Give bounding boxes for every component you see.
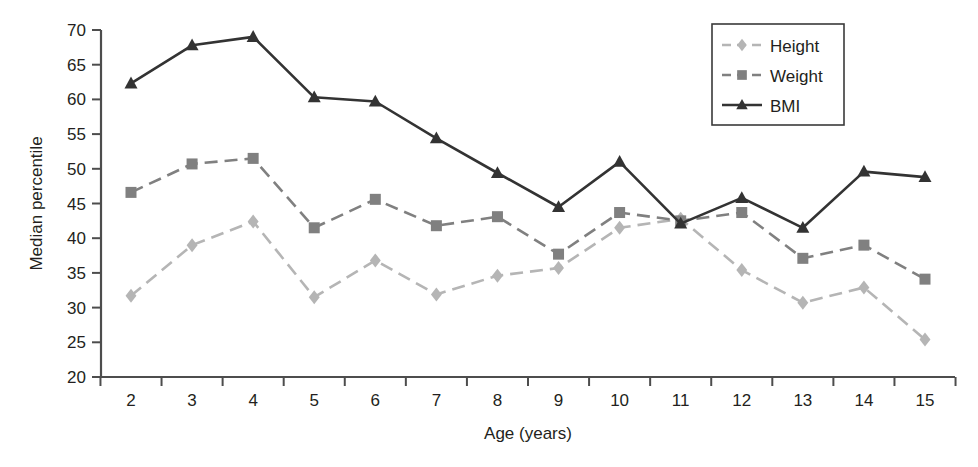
data-point-weight-15 xyxy=(920,274,931,285)
data-point-bmi-7 xyxy=(430,131,443,143)
data-point-height-10 xyxy=(614,221,625,235)
legend: HeightWeightBMI xyxy=(712,24,844,125)
data-point-height-5 xyxy=(309,290,320,304)
line-chart: 2025303540455055606570234567891011121314… xyxy=(0,0,978,467)
x-tick-label: 4 xyxy=(248,391,257,410)
x-tick-label: 11 xyxy=(672,391,690,410)
y-tick-label: 30 xyxy=(67,299,86,318)
data-point-weight-8 xyxy=(492,211,503,222)
x-tick-label: 10 xyxy=(610,391,629,410)
data-point-height-3 xyxy=(187,238,198,252)
x-tick-label: 8 xyxy=(493,391,502,410)
data-point-bmi-8 xyxy=(491,166,504,178)
y-tick-label: 45 xyxy=(67,195,86,214)
x-tick-label: 14 xyxy=(854,391,873,410)
data-point-weight-9 xyxy=(553,249,564,260)
data-point-weight-10 xyxy=(614,207,625,218)
chart-container: 2025303540455055606570234567891011121314… xyxy=(0,0,978,467)
marker-square xyxy=(737,70,747,80)
y-axis-title: Median percentile xyxy=(27,136,46,270)
y-tick-label: 70 xyxy=(67,21,86,40)
data-point-bmi-9 xyxy=(552,200,565,212)
legend-label-height: Height xyxy=(770,37,819,56)
data-point-weight-14 xyxy=(858,240,869,251)
x-tick-label: 7 xyxy=(432,391,441,410)
x-tick-label: 2 xyxy=(126,391,135,410)
y-tick-label: 20 xyxy=(67,368,86,387)
data-point-height-7 xyxy=(431,287,442,301)
series-height xyxy=(126,212,931,347)
data-point-weight-5 xyxy=(309,222,320,233)
x-tick-label: 3 xyxy=(187,391,196,410)
x-tick-label: 13 xyxy=(793,391,812,410)
data-point-bmi-2 xyxy=(125,77,138,89)
data-point-bmi-12 xyxy=(735,191,748,203)
data-point-weight-4 xyxy=(248,153,259,164)
data-point-weight-7 xyxy=(431,220,442,231)
y-tick-label: 50 xyxy=(67,160,86,179)
data-point-weight-12 xyxy=(736,207,747,218)
data-point-bmi-4 xyxy=(247,30,260,42)
data-point-height-6 xyxy=(370,253,381,267)
x-tick-label: 9 xyxy=(554,391,563,410)
y-tick-label: 35 xyxy=(67,264,86,283)
x-axis-title: Age (years) xyxy=(484,424,572,443)
data-point-height-8 xyxy=(492,269,503,283)
y-tick-label: 40 xyxy=(67,229,86,248)
data-point-bmi-14 xyxy=(857,165,870,177)
data-point-height-2 xyxy=(126,289,137,303)
data-point-weight-6 xyxy=(370,194,381,205)
x-tick-label: 12 xyxy=(732,391,751,410)
data-point-height-13 xyxy=(797,296,808,310)
y-tick-label: 60 xyxy=(67,90,86,109)
data-point-weight-13 xyxy=(797,253,808,264)
legend-label-weight: Weight xyxy=(770,67,823,86)
data-point-height-9 xyxy=(553,261,564,275)
x-tick-label: 5 xyxy=(309,391,318,410)
data-point-height-12 xyxy=(736,263,747,277)
legend-label-bmi: BMI xyxy=(770,97,800,116)
x-tick-label: 6 xyxy=(371,391,380,410)
data-point-bmi-10 xyxy=(613,155,626,167)
y-tick-label: 65 xyxy=(67,56,86,75)
data-point-weight-3 xyxy=(187,158,198,169)
series-weight xyxy=(126,153,931,285)
y-tick-label: 25 xyxy=(67,333,86,352)
x-tick-label: 15 xyxy=(916,391,935,410)
data-point-weight-2 xyxy=(126,187,137,198)
series-line-height xyxy=(131,219,925,340)
y-tick-label: 55 xyxy=(67,125,86,144)
